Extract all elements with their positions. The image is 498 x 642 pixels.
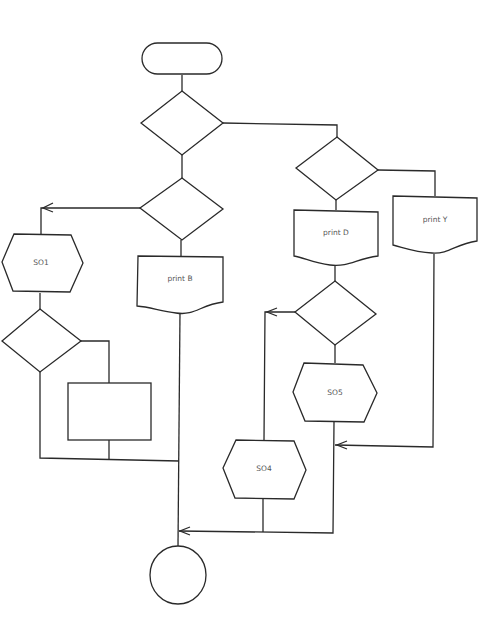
print-y-document[interactable]: print Y (393, 196, 477, 253)
so5-label: SO5 (327, 388, 343, 397)
connector-decision-d-to-so4 (264, 312, 295, 440)
end-connector[interactable] (150, 546, 206, 604)
connector-left-decision-to-so1 (41, 208, 140, 234)
connector-print-b-to-end (178, 312, 180, 546)
print-d-label: print D (323, 228, 349, 237)
circle-shape (150, 546, 206, 604)
process-shape (68, 383, 151, 440)
print-y-label: print Y (423, 215, 448, 224)
diamond-shape (141, 91, 223, 155)
so1-preparation[interactable]: SO1 (2, 234, 83, 292)
so4-preparation[interactable]: SO4 (223, 440, 306, 499)
decision-so1[interactable] (2, 309, 81, 372)
diamond-shape (140, 178, 223, 240)
document-shape (393, 196, 477, 253)
so5-preparation[interactable]: SO5 (293, 363, 377, 422)
diamond-shape (295, 281, 376, 345)
decision-left[interactable] (140, 178, 223, 240)
decision-right[interactable] (296, 137, 378, 200)
print-b-document[interactable]: print B (137, 256, 223, 314)
start-terminator[interactable] (142, 43, 222, 74)
print-d-document[interactable]: print D (294, 210, 378, 265)
diamond-shape (296, 137, 378, 200)
document-shape (294, 210, 378, 265)
document-shape (137, 256, 223, 314)
terminator-shape (142, 43, 222, 74)
so1-label: SO1 (33, 258, 49, 267)
process-box[interactable] (68, 383, 151, 440)
flowchart-canvas: SO1 print B print D print Y SO5 SO4 (0, 0, 498, 642)
diamond-shape (2, 309, 81, 372)
print-b-label: print B (167, 274, 192, 283)
connector-top-to-right-decision (223, 123, 337, 137)
connector-decision-to-process (81, 341, 109, 383)
decision-d[interactable] (295, 281, 376, 345)
connector-right-decision-to-print-y (378, 170, 435, 196)
so4-label: SO4 (256, 464, 272, 473)
decision-top[interactable] (141, 91, 223, 155)
